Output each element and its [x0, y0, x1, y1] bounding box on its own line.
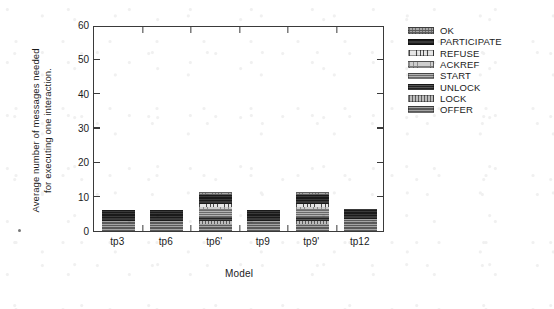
legend-item: PARTICIPATE [408, 36, 548, 47]
bar-segment [199, 210, 232, 217]
x-axis-tick-label: tp3 [110, 236, 124, 247]
y-tick-mark [94, 93, 100, 94]
bar-segment [150, 210, 183, 220]
legend-item-label: REFUSE [440, 48, 479, 59]
bar-stack [150, 210, 183, 231]
bar-segment [247, 221, 280, 231]
y-tick-mark [94, 59, 100, 60]
y-axis-tick-label: 40 [78, 88, 89, 99]
x-tick-mark [190, 27, 191, 33]
chart-legend: OKPARTICIPATEREFUSEACKREFSTARTUNLOCKLOCK… [408, 25, 548, 115]
y-axis-title: Average number of messages needed for ex… [30, 21, 53, 241]
legend-swatch-icon [408, 73, 434, 80]
y-tick-mark [94, 162, 100, 163]
y-tick-mark [94, 127, 100, 128]
bar-segment [296, 210, 329, 217]
x-axis-tick-label: tp6 [159, 236, 173, 247]
legend-item-label: START [440, 70, 471, 81]
x-axis-tick-label: tp9' [303, 236, 319, 247]
y-tick-mark [377, 127, 383, 128]
legend-item: UNLOCK [408, 81, 548, 92]
y-axis-tick-label: 30 [78, 123, 89, 134]
legend-item-label: OK [440, 25, 454, 36]
plot-area: 0102030405060 [93, 26, 384, 232]
x-tick-mark [142, 225, 143, 231]
legend-item-label: OFFER [440, 104, 473, 115]
x-tick-mark [287, 27, 288, 33]
legend-item: OK [408, 25, 548, 36]
x-tick-mark [239, 27, 240, 33]
x-axis-tick-label: tp12 [350, 236, 369, 247]
bar-segment [199, 195, 232, 204]
y-axis-tick-label: 50 [78, 54, 89, 65]
legend-swatch-icon [408, 95, 434, 102]
x-tick-mark [336, 27, 337, 33]
stacked-bar-chart: Average number of messages needed for ex… [0, 0, 554, 309]
y-tick-mark [377, 196, 383, 197]
y-axis-tick-label: 10 [78, 191, 89, 202]
y-tick-mark [377, 59, 383, 60]
bar-segment [150, 221, 183, 231]
bar-stack [296, 192, 329, 231]
bar-segment [296, 224, 329, 231]
bar-segment [199, 224, 232, 231]
legend-item: OFFER [408, 104, 548, 115]
bar-segment [344, 219, 377, 231]
y-tick-mark [377, 93, 383, 94]
y-axis-tick-label: 0 [83, 226, 89, 237]
x-tick-mark [239, 225, 240, 231]
x-axis-title: Model [93, 268, 385, 279]
y-tick-mark [377, 162, 383, 163]
legend-item: REFUSE [408, 48, 548, 59]
x-axis-tick-label: tp9 [256, 236, 270, 247]
legend-item-label: UNLOCK [440, 82, 481, 93]
legend-item: ACKREF [408, 59, 548, 70]
legend-swatch-icon [408, 106, 434, 113]
legend-swatch-icon [408, 39, 434, 46]
bar-stack [247, 210, 280, 231]
legend-swatch-icon [408, 61, 434, 68]
bar-segment [296, 195, 329, 204]
legend-swatch-icon [408, 27, 434, 34]
legend-swatch-icon [408, 84, 434, 91]
bar-segment [102, 210, 135, 220]
bar-segment [247, 210, 280, 220]
y-axis-tick-label: 20 [78, 157, 89, 168]
scan-artifact-dot [18, 229, 21, 232]
legend-item-label: LOCK [440, 93, 466, 104]
y-axis-tick-label: 60 [78, 20, 89, 31]
bar-segment [344, 209, 377, 219]
bar-stack [199, 192, 232, 231]
x-tick-mark [336, 225, 337, 231]
bar-segment [102, 221, 135, 231]
legend-item: LOCK [408, 93, 548, 104]
bar-stack [344, 209, 377, 231]
legend-item-label: PARTICIPATE [440, 36, 502, 47]
y-tick-mark [94, 196, 100, 197]
x-tick-mark [190, 225, 191, 231]
legend-item: START [408, 70, 548, 81]
x-axis-tick-label: tp6' [206, 236, 222, 247]
legend-swatch-icon [408, 50, 434, 57]
x-tick-mark [287, 225, 288, 231]
x-tick-mark [142, 27, 143, 33]
bar-stack [102, 210, 135, 231]
legend-item-label: ACKREF [440, 59, 479, 70]
